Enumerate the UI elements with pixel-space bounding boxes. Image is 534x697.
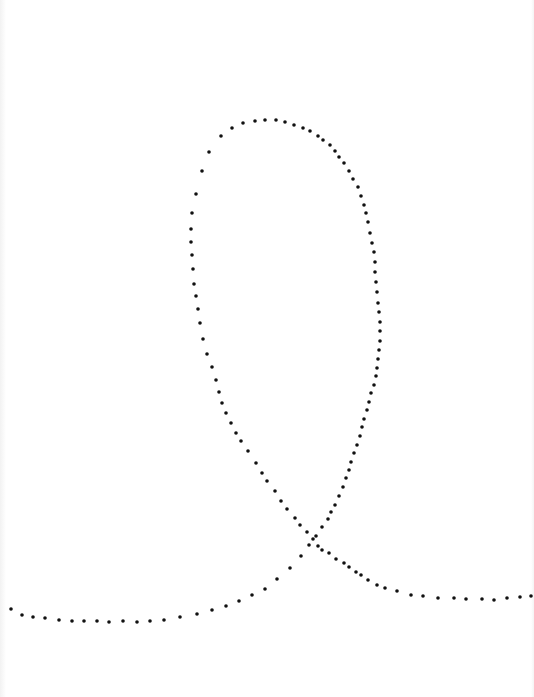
dot bbox=[378, 329, 382, 333]
dot bbox=[305, 530, 309, 534]
dot bbox=[372, 383, 376, 387]
dot bbox=[239, 439, 243, 443]
dot bbox=[307, 543, 311, 547]
dot bbox=[178, 615, 182, 619]
dot bbox=[314, 534, 318, 538]
dot bbox=[377, 348, 381, 352]
dot bbox=[230, 126, 234, 130]
dot bbox=[82, 619, 86, 623]
dot bbox=[283, 120, 287, 124]
dot bbox=[341, 485, 345, 489]
dot bbox=[365, 408, 369, 412]
dot bbox=[369, 391, 373, 395]
dot bbox=[344, 476, 348, 480]
dot bbox=[121, 619, 125, 623]
dot bbox=[200, 169, 204, 173]
dotted-loop-figure bbox=[0, 0, 534, 697]
dot bbox=[70, 619, 74, 623]
dot bbox=[162, 618, 166, 622]
dot-path bbox=[9, 118, 533, 624]
dot bbox=[356, 185, 360, 189]
dot bbox=[349, 460, 353, 464]
dot bbox=[192, 282, 196, 286]
dot bbox=[334, 557, 338, 561]
dot bbox=[311, 537, 315, 541]
dot bbox=[368, 231, 372, 235]
dot bbox=[135, 620, 139, 624]
dot bbox=[43, 616, 47, 620]
dot bbox=[285, 507, 289, 511]
dot bbox=[492, 598, 496, 602]
dot bbox=[366, 578, 370, 582]
dot bbox=[321, 138, 325, 142]
dot bbox=[370, 241, 374, 245]
dot bbox=[210, 608, 214, 612]
dot bbox=[354, 570, 358, 574]
dot bbox=[374, 280, 378, 284]
dot bbox=[351, 177, 355, 181]
dot bbox=[189, 227, 193, 231]
dot bbox=[320, 525, 324, 529]
dot bbox=[347, 565, 351, 569]
dot bbox=[376, 357, 380, 361]
dot bbox=[378, 320, 382, 324]
dot bbox=[207, 150, 211, 154]
dot bbox=[480, 597, 484, 601]
dot bbox=[260, 471, 264, 475]
dot bbox=[372, 250, 376, 254]
dot bbox=[250, 593, 254, 597]
dot bbox=[219, 134, 223, 138]
dot bbox=[246, 449, 250, 453]
dot bbox=[375, 583, 379, 587]
dot bbox=[241, 121, 245, 125]
dot bbox=[347, 468, 351, 472]
dot bbox=[342, 161, 346, 165]
dot bbox=[229, 421, 233, 425]
dot bbox=[275, 577, 279, 581]
dot bbox=[337, 155, 341, 159]
dot bbox=[367, 400, 371, 404]
dot bbox=[254, 461, 258, 465]
dot bbox=[274, 118, 278, 122]
dot bbox=[359, 573, 363, 577]
dot bbox=[288, 566, 292, 570]
dot bbox=[333, 503, 337, 507]
dot bbox=[421, 594, 425, 598]
dot bbox=[375, 290, 379, 294]
dot bbox=[316, 134, 320, 138]
dot bbox=[148, 619, 152, 623]
dot bbox=[273, 489, 277, 493]
dot bbox=[395, 589, 399, 593]
dot bbox=[327, 551, 331, 555]
dot bbox=[452, 596, 456, 600]
dot bbox=[436, 596, 440, 600]
dot bbox=[362, 203, 366, 207]
dot bbox=[342, 561, 346, 565]
dot bbox=[263, 118, 267, 122]
dot bbox=[505, 596, 509, 600]
dot bbox=[320, 548, 324, 552]
dot bbox=[308, 129, 312, 133]
dot bbox=[328, 143, 332, 147]
dot bbox=[366, 220, 370, 224]
dot bbox=[279, 499, 283, 503]
dot bbox=[373, 270, 377, 274]
dot bbox=[201, 337, 205, 341]
dot bbox=[9, 607, 13, 611]
dot bbox=[224, 604, 228, 608]
dot bbox=[316, 544, 320, 548]
dot bbox=[217, 390, 221, 394]
dot bbox=[292, 123, 296, 127]
dot bbox=[220, 401, 224, 405]
dot bbox=[263, 587, 267, 591]
dot bbox=[214, 378, 218, 382]
dot bbox=[326, 517, 330, 521]
dot bbox=[529, 594, 533, 598]
dot bbox=[293, 516, 297, 520]
dot bbox=[234, 431, 238, 435]
dot bbox=[95, 619, 99, 623]
dot bbox=[329, 510, 333, 514]
dot bbox=[31, 615, 35, 619]
dot bbox=[355, 443, 359, 447]
dot bbox=[190, 211, 194, 215]
